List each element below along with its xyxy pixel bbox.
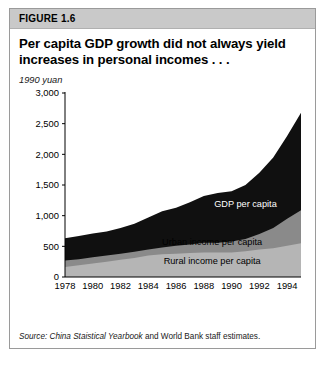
- svg-text:2,500: 2,500: [36, 118, 59, 129]
- figure-header: FIGURE 1.6: [10, 9, 315, 29]
- svg-text:1,500: 1,500: [36, 180, 59, 191]
- x-axis-tick-labels: 197819801982198419861988199019921994: [55, 280, 298, 291]
- y-axis-units-label: 1990 yuan: [10, 68, 315, 85]
- source-lead-text: Source: China Staistical Yearbook: [19, 332, 143, 341]
- chart-plot-area: 05001,0001,5002,0002,5003,000 1978198019…: [10, 85, 316, 309]
- svg-text:Rural income per capita: Rural income per capita: [164, 256, 262, 266]
- svg-text:1978: 1978: [55, 280, 76, 291]
- svg-text:1994: 1994: [277, 280, 298, 291]
- svg-text:Urban income per capita: Urban income per capita: [162, 238, 263, 248]
- figure-card: FIGURE 1.6 Per capita GDP growth did not…: [9, 8, 316, 349]
- y-axis-tick-labels: 05001,0001,5002,0002,5003,000: [36, 88, 65, 283]
- chart-series-layer: [65, 113, 301, 277]
- figure-title: Per capita GDP growth did not always yie…: [19, 36, 305, 68]
- svg-text:1980: 1980: [82, 280, 103, 291]
- svg-text:1,000: 1,000: [36, 210, 59, 221]
- source-note: Source: China Staistical Yearbook and Wo…: [19, 332, 260, 341]
- figure-number-label: FIGURE 1.6: [19, 13, 75, 24]
- figure-title-block: Per capita GDP growth did not always yie…: [10, 29, 315, 68]
- svg-text:1992: 1992: [249, 280, 270, 291]
- svg-text:2,000: 2,000: [36, 149, 59, 160]
- stacked-area-chart: 05001,0001,5002,0002,5003,000 1978198019…: [10, 85, 316, 309]
- svg-text:1990: 1990: [221, 280, 242, 291]
- svg-text:1982: 1982: [110, 280, 131, 291]
- svg-text:GDP per capita: GDP per capita: [214, 199, 278, 209]
- svg-text:1986: 1986: [166, 280, 187, 291]
- svg-text:1984: 1984: [138, 280, 159, 291]
- source-rest-text: and World Bank staff estimates.: [143, 332, 261, 341]
- svg-text:1988: 1988: [193, 280, 214, 291]
- svg-text:500: 500: [43, 241, 59, 252]
- svg-text:3,000: 3,000: [36, 88, 59, 99]
